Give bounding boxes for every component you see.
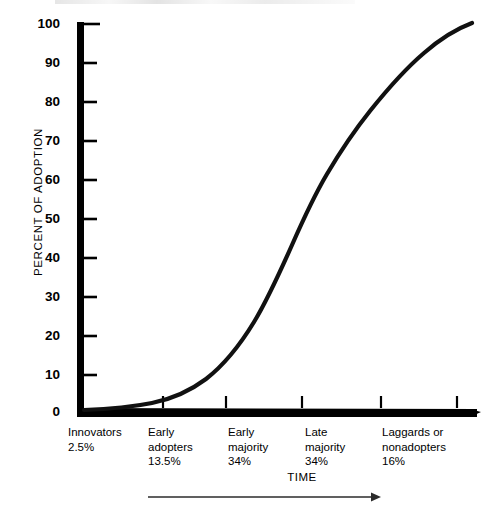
category-early-majority-line1: Early	[228, 425, 268, 440]
y-tick-label-10: 10	[26, 368, 60, 382]
category-innovators-line1: Innovators	[68, 425, 122, 440]
category-early-adopters-percent: 13.5%	[148, 454, 193, 469]
category-early-adopters: Early adopters 13.5%	[148, 425, 193, 469]
category-laggards: Laggards or nonadopters 16%	[382, 425, 446, 469]
category-innovators-percent: 2.5%	[68, 440, 122, 455]
category-innovators: Innovators 2.5%	[68, 425, 122, 454]
category-late-majority-line1: Late	[305, 425, 345, 440]
category-late-majority-percent: 34%	[305, 454, 345, 469]
category-early-adopters-line2: adopters	[148, 440, 193, 455]
diffusion-of-innovation-chart: PERCENT OF ADOPTION 100 90 80 70 60 50 4…	[0, 0, 494, 513]
category-early-majority: Early majority 34%	[228, 425, 268, 469]
category-laggards-percent: 16%	[382, 454, 446, 469]
category-early-majority-percent: 34%	[228, 454, 268, 469]
category-laggards-line2: nonadopters	[382, 440, 446, 455]
axis-frame	[77, 22, 481, 417]
y-tick-label-0: 0	[26, 405, 60, 419]
x-axis-ticks	[163, 396, 457, 408]
y-axis-ticks	[84, 24, 100, 375]
time-axis-label: TIME	[212, 471, 392, 483]
y-tick-label-20: 20	[26, 329, 60, 343]
adoption-s-curve	[84, 23, 472, 410]
y-tick-label-100: 100	[26, 17, 60, 31]
y-tick-label-90: 90	[26, 56, 60, 70]
category-late-majority-line2: majority	[305, 440, 345, 455]
y-tick-label-80: 80	[26, 95, 60, 109]
category-early-adopters-line1: Early	[148, 425, 193, 440]
category-laggards-line1: Laggards or	[382, 425, 446, 440]
y-tick-label-70: 70	[26, 134, 60, 148]
y-tick-label-50: 50	[26, 212, 60, 226]
y-tick-label-60: 60	[26, 173, 60, 187]
y-tick-label-40: 40	[26, 251, 60, 265]
y-tick-label-30: 30	[26, 290, 60, 304]
category-late-majority: Late majority 34%	[305, 425, 345, 469]
category-early-majority-line2: majority	[228, 440, 268, 455]
time-direction-arrow	[148, 493, 381, 502]
y-axis-title: PERCENT OF ADOPTION	[32, 82, 44, 322]
